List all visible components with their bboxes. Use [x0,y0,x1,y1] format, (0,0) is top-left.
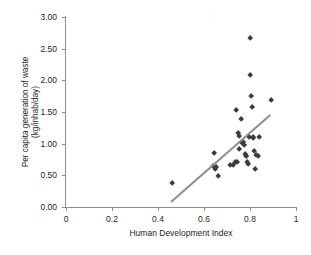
x-axis-line [65,207,297,208]
data-point [233,107,239,113]
data-point [268,97,274,103]
stray-artifact-mark [208,14,215,21]
plot-area: 0.000.501.001.502.002.503.00 00.20.40.60… [66,17,296,207]
data-point [252,166,258,172]
data-point [247,35,253,41]
data-point [245,161,251,167]
data-point [249,104,255,110]
x-axis-tick: 0.2 [112,207,113,211]
data-point [169,180,175,186]
data-point [241,142,247,148]
data-point [247,72,253,78]
data-point [248,93,254,99]
x-axis-tick: 0.8 [250,207,251,211]
y-axis-tick: 2.00 [62,80,66,81]
x-axis-tick-label: 1 [294,215,299,224]
x-axis-tick: 0.4 [158,207,159,211]
y-axis-title-line1: Per capita generation of waste [21,57,31,168]
data-point [238,116,244,122]
x-axis-tick: 0.6 [204,207,205,211]
x-axis-tick-label: 0.6 [198,215,210,224]
data-point [256,134,262,140]
data-point [255,153,261,159]
y-axis-tick: 1.00 [62,144,66,145]
x-axis-tick-label: 0.4 [152,215,164,224]
data-point [211,150,217,156]
x-axis-tick-label: 0 [64,215,69,224]
trend-line [170,114,270,202]
y-axis-tick: 1.50 [62,112,66,113]
y-axis-title-line2: (kg/inhab/day) [31,86,41,138]
x-axis-tick-label: 0.8 [244,215,256,224]
x-axis-title: Human Development Index [66,228,296,238]
x-axis-tick-label: 0.2 [106,215,118,224]
y-axis-title: Per capita generation of waste (kg/inhab… [18,17,44,207]
scatter-chart-figure: 0.000.501.001.502.002.503.00 00.20.40.60… [0,0,311,255]
x-axis-tick: 1 [296,207,297,211]
data-point [215,173,221,179]
y-axis-tick: 0.50 [62,175,66,176]
y-axis-tick: 3.00 [62,17,66,18]
x-axis-tick: 0 [66,207,67,211]
y-axis-tick: 2.50 [62,49,66,50]
